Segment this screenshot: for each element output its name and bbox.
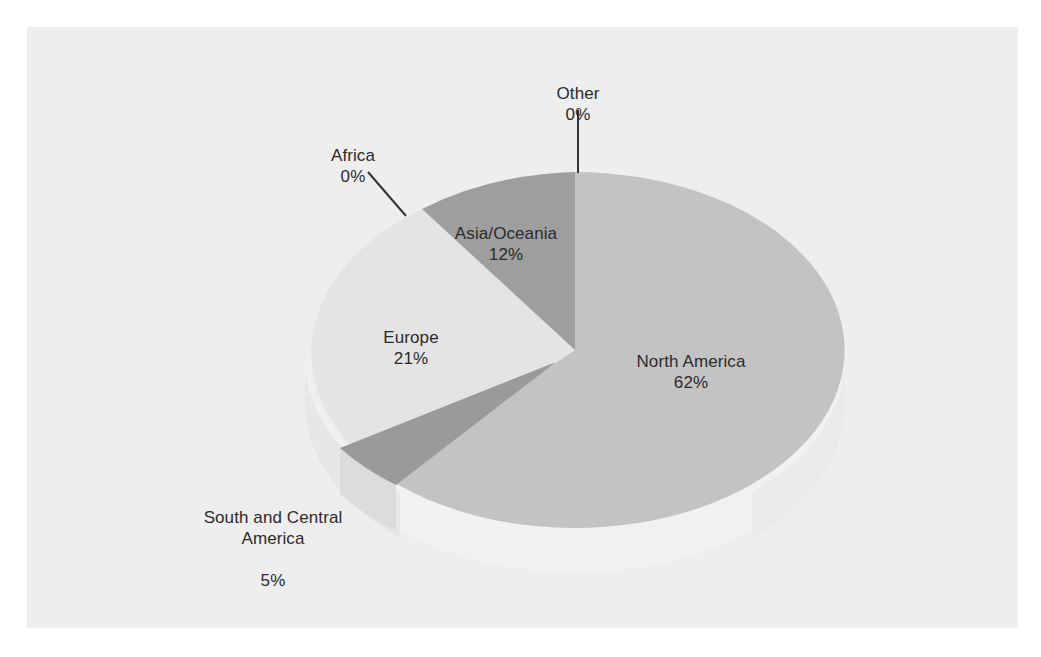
slice-label-other: Other 0% (508, 62, 648, 146)
slice-label-africa-name: Africa (331, 146, 375, 165)
slice-label-north-america-pct: 62% (596, 372, 786, 393)
slice-label-asia-oceania-name: Asia/Oceania (455, 224, 557, 243)
slice-label-other-pct: 0% (508, 104, 648, 125)
slice-label-south-central-america: South and Central America 5% (148, 486, 398, 612)
slice-label-north-america: North America 62% (596, 330, 786, 414)
slice-label-africa: Africa 0% (283, 124, 423, 208)
pie-chart-figure: Other 0% Africa 0% Asia/Oceania 12% Euro… (0, 0, 1041, 657)
slice-label-europe-name: Europe (383, 328, 438, 347)
slice-label-africa-pct: 0% (283, 166, 423, 187)
slice-label-south-central-america-pct: 5% (148, 570, 398, 591)
slice-label-other-name: Other (556, 84, 599, 103)
slice-label-south-central-america-line1: South and Central (204, 508, 343, 527)
slice-label-asia-oceania-pct: 12% (416, 244, 596, 265)
slice-label-north-america-name: North America (636, 352, 745, 371)
slice-label-asia-oceania: Asia/Oceania 12% (416, 202, 596, 286)
slice-label-south-central-america-line2: America (148, 528, 398, 549)
slice-label-europe-pct: 21% (336, 348, 486, 369)
slice-label-europe: Europe 21% (336, 306, 486, 390)
